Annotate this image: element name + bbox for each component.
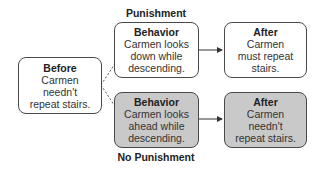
contingency-diagram: Punishment No Punishment Before Carmen n… — [0, 0, 322, 169]
no-punishment-behavior-box: Behavior Carmen looks ahead while descen… — [114, 92, 199, 148]
behavior-line-2: down while — [131, 50, 183, 62]
behavior-line-2: ahead while — [128, 120, 184, 132]
before-line-2: needn't — [43, 86, 77, 98]
behavior-title: Behavior — [134, 26, 179, 38]
after-line-2: must repeat — [238, 50, 293, 62]
after-line-1: Carmen — [247, 38, 284, 50]
after-line-3: repeat stairs. — [235, 132, 296, 144]
after-line-3: stairs. — [251, 62, 279, 74]
before-title: Before — [43, 62, 76, 74]
before-line-3: repeat stairs. — [30, 98, 91, 110]
no-punishment-label: No Punishment — [108, 151, 204, 163]
punishment-label: Punishment — [114, 7, 198, 19]
punishment-after-box: After Carmen must repeat stairs. — [224, 22, 307, 78]
after-title: After — [253, 96, 278, 108]
before-line-1: Carmen — [41, 74, 78, 86]
after-title: After — [253, 26, 278, 38]
behavior-title: Behavior — [134, 96, 179, 108]
behavior-line-1: Carmen looks — [124, 108, 189, 120]
behavior-line-3: descending. — [128, 132, 185, 144]
no-punishment-after-box: After Carmen needn't repeat stairs. — [224, 92, 307, 148]
punishment-behavior-box: Behavior Carmen looks down while descend… — [114, 22, 199, 78]
behavior-line-1: Carmen looks — [124, 38, 189, 50]
after-line-1: Carmen — [247, 108, 284, 120]
after-line-2: needn't — [248, 120, 282, 132]
before-box: Before Carmen needn't repeat stairs. — [18, 57, 102, 114]
behavior-line-3: descending. — [128, 62, 185, 74]
